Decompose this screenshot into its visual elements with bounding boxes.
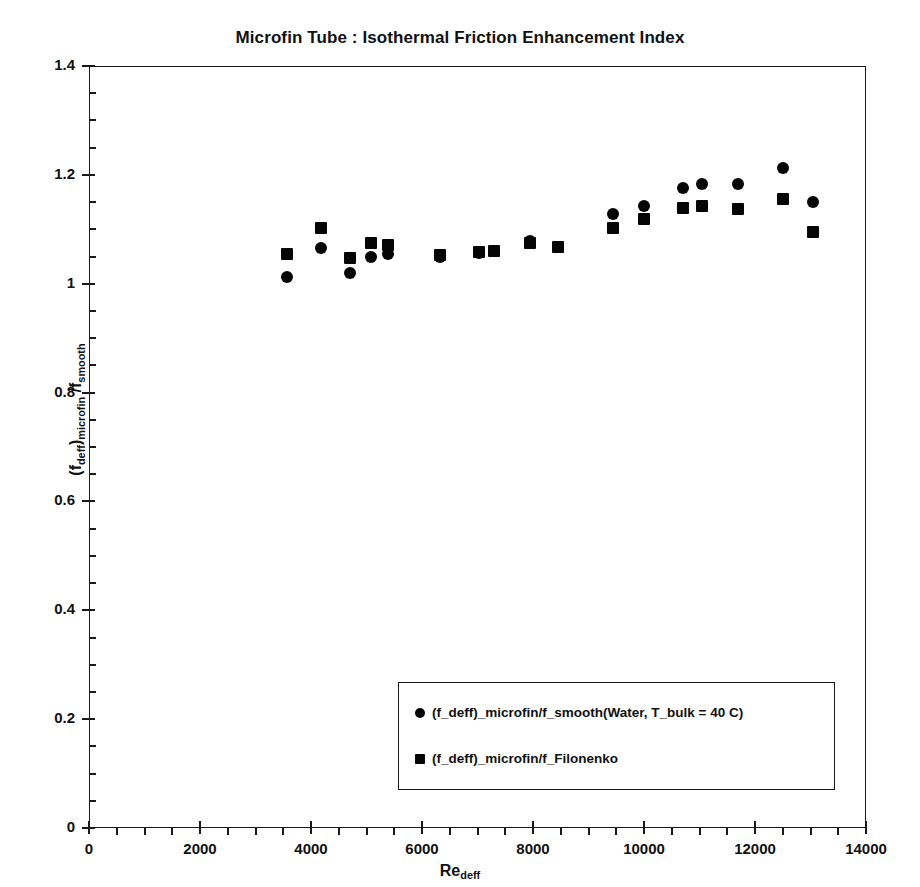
y-tick-minor bbox=[89, 745, 96, 747]
x-tick-minor bbox=[393, 828, 395, 835]
x-tick-minor bbox=[726, 828, 728, 835]
data-point-square bbox=[607, 222, 619, 234]
x-tick-minor bbox=[227, 828, 229, 835]
data-point-square bbox=[696, 200, 708, 212]
y-tick-minor bbox=[89, 364, 96, 366]
y-tick-label: 1 bbox=[15, 274, 75, 291]
x-tick-major bbox=[532, 821, 534, 834]
x-tick-major bbox=[643, 821, 645, 834]
x-axis-title: Redeff bbox=[0, 862, 920, 881]
legend-circle-marker-icon bbox=[415, 708, 425, 718]
y-tick-minor bbox=[89, 528, 96, 530]
legend-square-marker-icon bbox=[415, 754, 425, 764]
x-tick-label: 8000 bbox=[493, 840, 573, 857]
x-tick-major bbox=[421, 821, 423, 834]
legend-entry-smooth: (f_deff)_microfin/f_smooth(Water, T_bulk… bbox=[415, 705, 743, 720]
y-tick-label: 0.6 bbox=[15, 491, 75, 508]
y-tick-major bbox=[82, 609, 95, 611]
data-point-square bbox=[552, 241, 564, 253]
y-tick-major bbox=[82, 65, 95, 67]
y-tick-minor bbox=[89, 419, 96, 421]
x-tick-major bbox=[865, 821, 867, 834]
x-tick-minor bbox=[699, 828, 701, 835]
y-axis-title-s2: microfin bbox=[75, 397, 87, 440]
data-point-square bbox=[365, 237, 377, 249]
data-point-square bbox=[473, 246, 485, 258]
data-point-circle bbox=[365, 251, 377, 263]
legend-label-filonenko: (f_deff)_microfin/f_Filonenko bbox=[432, 751, 618, 766]
x-tick-major bbox=[199, 821, 201, 834]
x-tick-minor bbox=[560, 828, 562, 835]
y-tick-minor bbox=[89, 691, 96, 693]
x-tick-major bbox=[88, 821, 90, 834]
y-tick-minor bbox=[89, 228, 96, 230]
legend-entry-filonenko: (f_deff)_microfin/f_Filonenko bbox=[415, 751, 618, 766]
x-axis-title-base: Re bbox=[440, 862, 460, 879]
data-point-square bbox=[732, 203, 744, 215]
y-tick-minor bbox=[89, 582, 96, 584]
y-tick-label: 0.8 bbox=[15, 383, 75, 400]
x-tick-minor bbox=[366, 828, 368, 835]
y-tick-minor bbox=[89, 637, 96, 639]
y-axis-title-p2: ) bbox=[67, 440, 84, 445]
chart-title: Microfin Tube : Isothermal Friction Enha… bbox=[0, 28, 920, 48]
data-point-square bbox=[488, 245, 500, 257]
data-point-square bbox=[315, 222, 327, 234]
x-tick-minor bbox=[338, 828, 340, 835]
y-tick-minor bbox=[89, 446, 96, 448]
data-point-square bbox=[777, 193, 789, 205]
x-tick-label: 6000 bbox=[382, 840, 462, 857]
y-axis-title-p3: /f bbox=[67, 383, 84, 397]
y-tick-label: 1.2 bbox=[15, 165, 75, 182]
x-tick-minor bbox=[171, 828, 173, 835]
data-point-circle bbox=[281, 271, 293, 283]
y-tick-minor bbox=[89, 256, 96, 258]
y-axis-title-p1: (f bbox=[67, 465, 84, 476]
y-tick-label: 0 bbox=[15, 818, 75, 835]
x-tick-minor bbox=[144, 828, 146, 835]
y-tick-label: 1.4 bbox=[15, 56, 75, 73]
x-tick-label: 12000 bbox=[715, 840, 795, 857]
y-tick-minor bbox=[89, 555, 96, 557]
data-point-square bbox=[382, 239, 394, 251]
x-tick-minor bbox=[282, 828, 284, 835]
legend-label-smooth: (f_deff)_microfin/f_smooth(Water, T_bulk… bbox=[432, 705, 743, 720]
y-tick-minor bbox=[89, 773, 96, 775]
data-point-square bbox=[281, 248, 293, 260]
y-tick-label: 0.4 bbox=[15, 600, 75, 617]
y-tick-minor bbox=[89, 800, 96, 802]
data-point-square bbox=[344, 252, 356, 264]
data-point-square bbox=[524, 237, 536, 249]
data-point-circle bbox=[344, 267, 356, 279]
data-point-circle bbox=[732, 178, 744, 190]
y-tick-minor bbox=[89, 119, 96, 121]
x-tick-major bbox=[754, 821, 756, 834]
x-tick-minor bbox=[615, 828, 617, 835]
data-point-square bbox=[807, 226, 819, 238]
data-point-circle bbox=[315, 242, 327, 254]
data-point-square bbox=[638, 213, 650, 225]
x-tick-label: 4000 bbox=[271, 840, 351, 857]
x-tick-label: 0 bbox=[49, 840, 129, 857]
x-axis-title-sub: deff bbox=[460, 869, 480, 881]
y-axis-title: (fdeff)microfin /fsmooth bbox=[67, 240, 86, 580]
x-tick-label: 14000 bbox=[826, 840, 906, 857]
data-point-circle bbox=[696, 178, 708, 190]
x-tick-label: 2000 bbox=[160, 840, 240, 857]
data-point-square bbox=[677, 202, 689, 214]
chart-legend: (f_deff)_microfin/f_smooth(Water, T_bulk… bbox=[398, 682, 835, 790]
y-axis-title-s3: smooth bbox=[75, 343, 87, 382]
y-tick-minor bbox=[89, 92, 96, 94]
x-tick-minor bbox=[782, 828, 784, 835]
x-tick-minor bbox=[810, 828, 812, 835]
x-tick-minor bbox=[588, 828, 590, 835]
x-tick-label: 10000 bbox=[604, 840, 684, 857]
data-point-circle bbox=[677, 182, 689, 194]
y-tick-major bbox=[82, 718, 95, 720]
x-tick-major bbox=[310, 821, 312, 834]
y-tick-major bbox=[82, 174, 95, 176]
y-tick-minor bbox=[89, 147, 96, 149]
chart-figure: Microfin Tube : Isothermal Friction Enha… bbox=[0, 0, 920, 887]
x-tick-minor bbox=[671, 828, 673, 835]
y-tick-minor bbox=[89, 310, 96, 312]
